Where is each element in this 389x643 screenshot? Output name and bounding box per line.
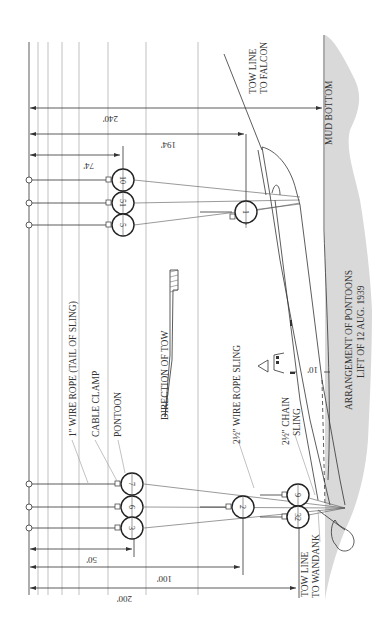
pontoon-9: 9 — [287, 484, 309, 506]
leader-lines — [72, 435, 320, 542]
dim-194-label: 194' — [161, 140, 177, 150]
pontoon-10: 10 — [112, 169, 134, 191]
pontoon-6: 6 — [121, 496, 143, 518]
label-tow-line-falcon-2: TO FALCON — [259, 42, 269, 94]
diagram-title-line2: LIFT OF 12 AUG. 1939 — [356, 285, 366, 378]
svg-text:7: 7 — [127, 482, 136, 486]
label-tow-line-falcon-1: TOW LINE — [248, 49, 258, 94]
pontoon-arrangement-diagram: 240' 194' 74' 50' 100' 200' — [0, 0, 389, 643]
pontoon-1: 1 — [235, 201, 257, 228]
label-chain-sling-1: 2½" CHAIN — [281, 397, 291, 445]
pontoon-32: 32 — [287, 506, 309, 528]
label-mud-bottom: MUD BOTTOM — [324, 80, 334, 145]
label-chain-sling-2: SLING — [292, 408, 302, 436]
label-pontoon: PONTOON — [113, 392, 123, 437]
offset-label: 10' — [307, 365, 318, 375]
svg-text:6: 6 — [127, 505, 136, 509]
svg-text:32: 32 — [293, 513, 302, 521]
label-cable-clamp: CABLE CLAMP — [91, 371, 101, 437]
dimension-194: 194' — [30, 132, 246, 225]
label-tow-line-wandank-1: TOW LINE — [300, 552, 310, 597]
svg-text:51: 51 — [118, 199, 127, 207]
dim-74-label: 74' — [83, 161, 94, 171]
pontoon-3: 3 — [121, 517, 143, 539]
dimension-240: 240' — [30, 106, 322, 124]
label-direction-of-tow: DIRECTION OF TOW — [160, 331, 170, 420]
dim-200-label: 200' — [117, 594, 133, 604]
svg-text:1: 1 — [241, 210, 250, 214]
pontoon-51: 51 — [112, 192, 134, 214]
diagram-title-line1: ARRANGEMENT OF PONTOONS — [344, 270, 354, 410]
dim-100-label: 100' — [157, 574, 173, 584]
pontoon-5: 5 — [112, 214, 134, 236]
svg-text:3: 3 — [127, 526, 136, 530]
dimension-50: 50' — [30, 530, 134, 565]
pontoon-7: 7 — [121, 473, 143, 495]
label-tow-line-wandank-2: TO WANDANK — [311, 534, 321, 598]
pontoon-2: 2 — [232, 496, 254, 518]
svg-text:10: 10 — [118, 176, 127, 184]
label-wire-rope-tail: 1" WIRE ROPE (TAIL OF SLING) — [68, 301, 79, 437]
svg-text:2: 2 — [238, 505, 247, 509]
label-wire-rope-sling: 2½" WIRE ROPE SLING — [232, 345, 242, 444]
dimension-200: 200' — [30, 510, 299, 604]
dim-50-label: 50' — [86, 555, 97, 565]
dim-240-label: 240' — [103, 114, 119, 124]
svg-text:5: 5 — [118, 223, 127, 227]
svg-text:9: 9 — [293, 493, 302, 497]
